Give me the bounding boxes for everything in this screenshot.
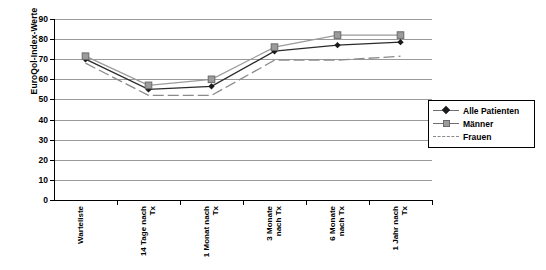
square-marker-icon: [433, 118, 459, 129]
x-tick-mark: [243, 200, 244, 205]
y-tick-label: 70: [24, 55, 48, 63]
legend-label: Frauen: [459, 132, 491, 142]
gridline: [54, 160, 432, 161]
diamond-marker-icon: [433, 105, 459, 116]
y-axis-line: [54, 19, 55, 201]
gridline: [54, 180, 432, 181]
legend-label: Alle Patienten: [459, 106, 519, 116]
x-tick-mark: [369, 200, 370, 205]
y-tick-mark: [50, 140, 54, 141]
y-tick-label: 60: [24, 75, 48, 83]
x-tick-label: 6 Monate nach Tx: [328, 206, 346, 268]
chart-container: EuroQol-Index-Werte Alle Patienten Männe…: [0, 0, 546, 270]
y-tick-label: 90: [24, 15, 48, 23]
legend-label: Männer: [459, 119, 493, 129]
y-tick-mark: [50, 59, 54, 60]
x-tick-label: Warteliste: [76, 206, 85, 268]
y-tick-label: 30: [24, 136, 48, 144]
legend-item-alle-patienten[interactable]: Alle Patienten: [433, 104, 530, 117]
y-tick-mark: [50, 79, 54, 80]
gridline: [54, 120, 432, 121]
y-tick-label: 80: [24, 35, 48, 43]
gridline: [54, 79, 432, 80]
y-tick-label: 0: [24, 196, 48, 204]
y-tick-label: 40: [24, 116, 48, 124]
x-tick-mark: [117, 200, 118, 205]
y-tick-mark: [50, 200, 54, 201]
y-tick-mark: [50, 99, 54, 100]
plot-area: [54, 19, 432, 200]
legend-item-frauen[interactable]: Frauen: [433, 130, 530, 143]
x-tick-label: 1 Monat nach Tx: [202, 206, 220, 268]
dashed-line-icon: [433, 131, 459, 142]
y-tick-mark: [50, 180, 54, 181]
x-tick-mark: [306, 200, 307, 205]
gridline: [54, 99, 432, 100]
y-tick-mark: [50, 120, 54, 121]
gridline: [54, 59, 432, 60]
x-tick-mark: [432, 200, 433, 205]
y-tick-label: 20: [24, 156, 48, 164]
x-tick-label: 1 Jahr nach Tx: [391, 206, 409, 268]
x-tick-mark: [180, 200, 181, 205]
gridline: [54, 19, 432, 20]
chart-legend: Alle Patienten Männer Frauen: [428, 100, 535, 148]
y-tick-label: 10: [24, 176, 48, 184]
x-tick-label: 3 Monate nach Tx: [265, 206, 283, 268]
y-tick-label: 50: [24, 95, 48, 103]
y-tick-mark: [50, 160, 54, 161]
legend-item-maenner[interactable]: Männer: [433, 117, 530, 130]
y-tick-mark: [50, 19, 54, 20]
gridline: [54, 39, 432, 40]
y-tick-mark: [50, 39, 54, 40]
x-tick-label: 14 Tage nach Tx: [139, 206, 157, 268]
gridline: [54, 140, 432, 141]
